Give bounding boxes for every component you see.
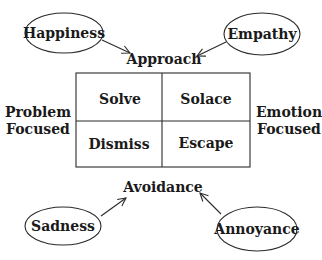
avoidance-label: Avoidance: [122, 179, 203, 195]
emotion-focused-label-line2: Focused: [257, 121, 321, 137]
arrow-annoyance-to-avoidance: [200, 193, 221, 214]
problem-focused-label-line1: Problem: [5, 104, 71, 120]
emotion-focused-label-line1: Emotion: [256, 104, 322, 120]
cell-solace: Solace: [180, 91, 231, 107]
approach-label: Approach: [126, 51, 202, 67]
problem-focused-label-line2: Focused: [6, 121, 70, 137]
emotion-label: Empathy: [227, 26, 297, 42]
grid-border: [76, 73, 250, 167]
emotion-node-happiness: Happiness: [23, 13, 105, 53]
emotion-label: Happiness: [23, 25, 105, 41]
cell-dismiss: Dismiss: [88, 136, 149, 152]
emotion-node-empathy: Empathy: [224, 13, 300, 55]
emotion-label: Sadness: [31, 218, 95, 234]
cell-escape: Escape: [179, 135, 234, 151]
cell-solve: Solve: [99, 91, 141, 107]
strategy-grid: Solve Solace Dismiss Escape: [76, 73, 250, 167]
emotion-node-annoyance: Annoyance: [213, 207, 299, 251]
emotion-node-sadness: Sadness: [25, 207, 101, 245]
coping-diagram: Happiness Empathy Sadness Annoyance Appr…: [0, 0, 322, 260]
arrow-sadness-to-avoidance: [101, 198, 126, 216]
emotion-label: Annoyance: [213, 221, 299, 237]
